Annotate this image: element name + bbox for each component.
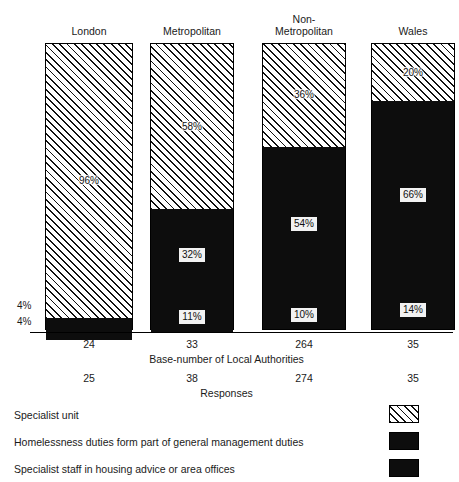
bar-segment: 58%: [151, 44, 233, 209]
responses-caption-row: Responses: [0, 386, 453, 400]
bar-group-london: London96%4%4%: [45, 43, 133, 330]
bar-segment: 10%: [263, 300, 345, 329]
responses-value: 38: [150, 371, 234, 385]
legend-item[interactable]: Homelessness duties form part of general…: [0, 432, 453, 456]
bar-category-label: Wales: [348, 25, 459, 37]
base-number-caption: Base-number of Local Authorities: [0, 352, 453, 366]
bar-group-nonmetropolitan: Non- Metropolitan36%54%10%: [262, 43, 346, 330]
bar-segment-value-label: 58%: [179, 120, 205, 134]
legend-item-swatch: [389, 459, 419, 477]
bar-segment-value-label: 10%: [291, 308, 317, 322]
base-number-value: 264: [262, 337, 346, 351]
bar-category-label: Metropolitan: [127, 25, 257, 37]
base-number-value: 24: [45, 337, 133, 351]
stacked-bar-chart: London96%4%4%Metropolitan58%32%11%Non- M…: [0, 0, 453, 340]
bar-segment-value-label: 54%: [291, 217, 317, 231]
bar-segment: 66%: [372, 101, 454, 289]
bar-segment-value-label: 11%: [179, 310, 204, 324]
chart-legend: Specialist unitHomelessness duties form …: [0, 405, 453, 482]
bar-stack: 36%54%10%: [262, 43, 346, 330]
bar-segment-external-label: 4%: [17, 300, 31, 312]
responses-value: 274: [262, 371, 346, 385]
bar-segment: 11%: [151, 300, 233, 331]
bar-segment-value-label: 14%: [400, 303, 426, 317]
base-number-value: 35: [371, 337, 455, 351]
bar-stack: 58%32%11%: [150, 43, 234, 330]
bar-segment-value-label: 32%: [179, 248, 205, 262]
bar-segment: 96%: [46, 44, 132, 318]
legend-item-swatch: [389, 405, 419, 423]
bar-segment: 4%: [46, 318, 132, 329]
bar-segment: 36%: [263, 44, 345, 147]
bar-stack: 20%66%14%: [371, 43, 455, 330]
responses-caption: Responses: [0, 386, 453, 400]
bar-segment-value-label: 66%: [400, 188, 426, 202]
bar-segment-value-label: 36%: [291, 88, 317, 102]
responses-tick-row: 253827435: [0, 371, 453, 385]
base-number-tick-row: 243326435: [0, 337, 453, 351]
legend-item[interactable]: Specialist unit: [0, 405, 453, 429]
responses-value: 25: [45, 371, 133, 385]
bar-segment: 54%: [263, 147, 345, 301]
bar-segment-external-label: 4%: [17, 316, 31, 328]
bar-segment-value-label: 96%: [76, 174, 102, 188]
legend-item-swatch: [389, 432, 419, 450]
base-number-caption-row: Base-number of Local Authorities: [0, 352, 453, 366]
legend-item-label: Homelessness duties form part of general…: [14, 435, 303, 449]
base-number-value: 33: [150, 337, 234, 351]
bar-segment: 14%: [372, 289, 454, 329]
bar-group-wales: Wales20%66%14%: [371, 43, 455, 330]
responses-value: 35: [371, 371, 455, 385]
axis-baseline: [30, 332, 453, 333]
bar-stack: 96%4%4%: [45, 43, 133, 330]
legend-item-label: Specialist staff in housing advice or ar…: [14, 462, 235, 476]
bar-segment-value-label: 20%: [400, 66, 426, 80]
legend-item-label: Specialist unit: [14, 408, 79, 422]
bar-segment: 32%: [151, 209, 233, 300]
legend-item[interactable]: Specialist staff in housing advice or ar…: [0, 459, 453, 482]
bar-segment: 20%: [372, 44, 454, 101]
bar-group-metropolitan: Metropolitan58%32%11%: [150, 43, 234, 330]
